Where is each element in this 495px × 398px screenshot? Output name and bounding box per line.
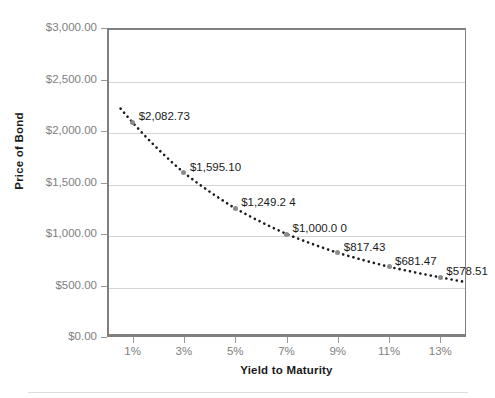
data-marker: [284, 232, 289, 237]
data-marker: [233, 206, 238, 211]
x-axis-tick-mark: [287, 337, 288, 343]
data-point-label: $1,249.2 4: [241, 196, 295, 208]
x-axis-tick-label: 11%: [369, 345, 409, 357]
x-axis-tick-mark: [440, 337, 441, 343]
data-point-label: $817.43: [344, 241, 386, 253]
x-axis-tick-mark: [338, 337, 339, 343]
bond-price-yield-chart: Price of Bond $3,000.00$2,500.00$2,000.0…: [0, 0, 495, 398]
data-marker: [387, 264, 392, 269]
x-axis-tick-label: 7%: [267, 345, 307, 357]
x-axis-tick-mark: [133, 337, 134, 343]
data-point-label: $2,082.73: [139, 110, 190, 122]
x-axis-tick-label: 1%: [113, 345, 153, 357]
x-axis-tick-label: 13%: [420, 345, 460, 357]
x-axis-tick-label: 3%: [164, 345, 204, 357]
data-point-label: $681.47: [395, 255, 437, 267]
x-axis-tick-label: 5%: [215, 345, 255, 357]
data-marker: [438, 275, 443, 280]
x-axis-tick-mark: [389, 337, 390, 343]
x-axis-tick-mark: [184, 337, 185, 343]
data-point-label: $1,595.10: [190, 161, 241, 173]
footer-divider: [28, 392, 468, 393]
data-point-label: $1,000.0 0: [293, 222, 347, 234]
data-point-label: $578.51: [446, 265, 488, 277]
x-axis-title: Yield to Maturity: [107, 364, 466, 376]
x-axis-tick-label: 9%: [318, 345, 358, 357]
x-axis-tick-mark: [235, 337, 236, 343]
